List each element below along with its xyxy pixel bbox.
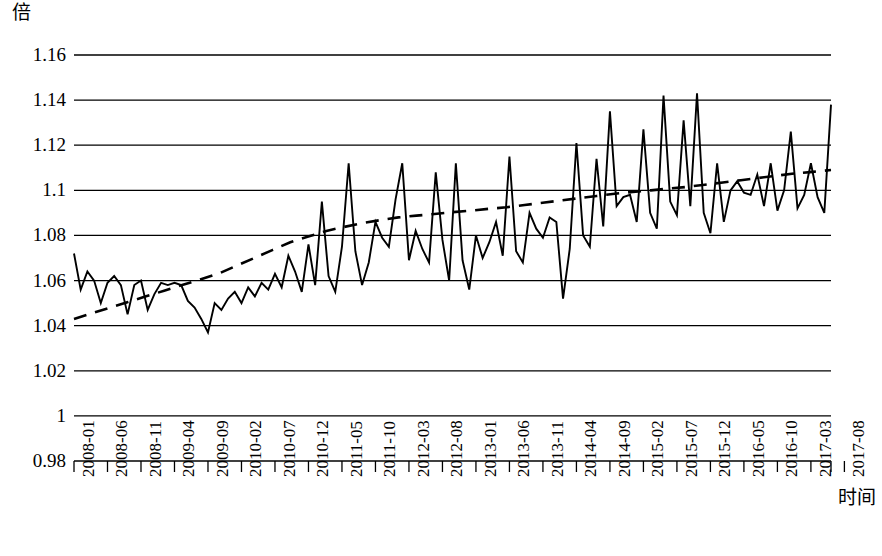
data-line-series — [74, 93, 831, 332]
y-axis-tick-label: 1.02 — [4, 361, 66, 380]
x-axis-tick-label: 2008-01 — [80, 420, 97, 477]
x-axis-tick-label: 2016-10 — [783, 420, 800, 477]
x-axis-tick-label: 2009-04 — [180, 420, 197, 477]
x-axis-tick-label: 2010-02 — [247, 420, 264, 477]
x-axis-tick-label: 2008-06 — [113, 420, 130, 477]
y-axis-tick-label: 1 — [4, 406, 66, 425]
x-axis-tick-label: 2015-02 — [649, 420, 666, 477]
trend-line-series — [74, 170, 831, 319]
y-axis-tick-label: 1.12 — [4, 135, 66, 154]
y-axis-tick-label: 1.06 — [4, 271, 66, 290]
x-axis-tick-label: 2013-01 — [482, 420, 499, 477]
x-axis-tick-label: 2013-06 — [515, 420, 532, 477]
x-axis-tick-label: 2012-08 — [448, 420, 465, 477]
x-axis-tick-label: 2015-07 — [683, 420, 700, 477]
x-axis-tick-label: 2011-10 — [381, 421, 398, 477]
y-axis-tick-label: 1.04 — [4, 316, 66, 335]
x-axis-tick-label: 2011-05 — [348, 421, 365, 477]
y-axis-tick-label: 1.08 — [4, 225, 66, 244]
x-axis-tick-label: 2013-11 — [549, 421, 566, 477]
x-axis-tick-label: 2010-12 — [314, 420, 331, 477]
x-axis-tick-label: 2017-08 — [850, 420, 867, 477]
x-axis-tick-label: 2017-03 — [817, 420, 834, 477]
x-axis-tick-label: 2014-09 — [616, 420, 633, 477]
y-axis-tick-label: 0.98 — [4, 451, 66, 470]
x-axis-tick-label: 2010-07 — [281, 420, 298, 477]
y-axis-tick-label: 1.1 — [4, 180, 66, 199]
y-axis-tick-label: 1.16 — [4, 45, 66, 64]
gridlines — [74, 55, 831, 461]
x-axis-tick-label: 2012-03 — [415, 420, 432, 477]
y-axis-tick-label: 1.14 — [4, 90, 66, 109]
x-axis-tick-label: 2014-04 — [582, 420, 599, 477]
x-axis-tick-label: 2009-09 — [214, 420, 231, 477]
x-axis-tick-label: 2015-12 — [716, 420, 733, 477]
x-axis-tick-label: 2016-05 — [750, 420, 767, 477]
chart-page: 倍 时间 0.9811.021.041.061.081.11.121.141.1… — [0, 0, 882, 556]
x-axis-tick-label: 2008-11 — [147, 421, 164, 477]
